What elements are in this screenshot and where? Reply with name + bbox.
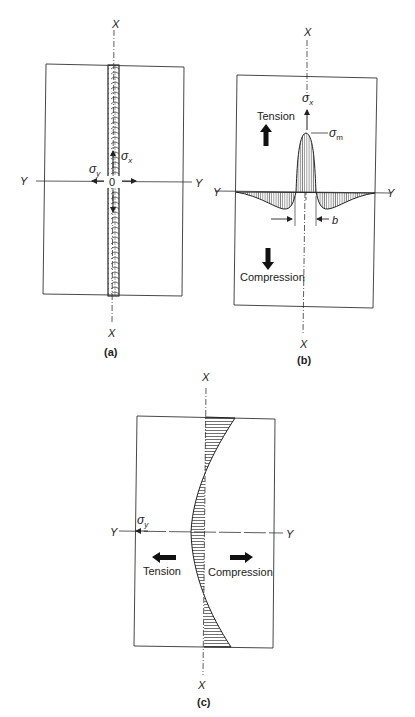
axis-y-left-label: Y <box>213 186 221 198</box>
tension-label: Tension <box>143 565 181 577</box>
tension-arrow-left <box>152 552 176 563</box>
compression-label: Compression <box>240 271 305 283</box>
sigma-y-label: σy <box>89 162 101 178</box>
x-axis-centerline-lower <box>303 192 305 335</box>
panel-c: σy Tension Compression X X Y Y (c) <box>110 371 294 708</box>
axis-x-bottom-label: X <box>299 338 308 350</box>
axis-y-left-label: Y <box>20 175 28 187</box>
compression-label: Compression <box>208 566 273 578</box>
axis-y-left-label: Y <box>110 526 118 538</box>
sigma-m-label: σm <box>329 126 343 142</box>
axis-x-bottom-label: X <box>197 679 206 691</box>
axis-x-top-label: X <box>201 371 210 383</box>
caption-c: (c) <box>197 696 211 708</box>
panel-a: 0 X X Y Y σx σy (a) <box>20 18 203 358</box>
width-b-label: b <box>332 214 338 226</box>
sigma-y-label: σy <box>137 513 149 529</box>
compression-arrow-right <box>230 552 253 563</box>
axis-x-top-label: X <box>111 18 120 30</box>
caption-a: (a) <box>104 346 118 358</box>
sigma-x-label: σx <box>302 91 314 107</box>
origin-label: 0 <box>109 176 115 188</box>
axis-y-right-label: Y <box>195 177 203 189</box>
caption-b: (b) <box>297 354 311 366</box>
tension-label: Tension <box>257 110 295 122</box>
residual-stress-diagram: 0 X X Y Y σx σy (a) b σm σx Te <box>0 0 415 717</box>
axis-x-bottom-label: X <box>107 327 116 339</box>
axis-y-right-label: Y <box>286 528 294 540</box>
panel-b: b σm σx Tension Compression X X Y Y (b) <box>213 26 395 366</box>
axis-y-right-label: Y <box>387 187 395 199</box>
sigma-x-label: σx <box>121 149 133 165</box>
stress-distribution-curve <box>236 133 375 209</box>
tension-arrow-up <box>260 124 272 146</box>
compression-arrow-down <box>262 248 274 270</box>
axis-x-top-label: X <box>303 26 312 38</box>
